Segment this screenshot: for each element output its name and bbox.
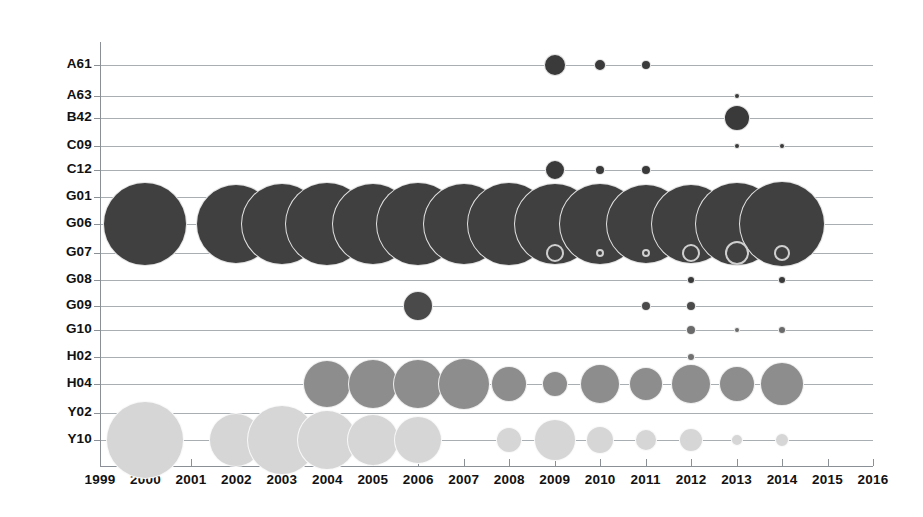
bubble-y10-2010[interactable] [586, 426, 614, 454]
bubble-y10-2014[interactable] [775, 433, 789, 447]
gridline-c09 [100, 146, 873, 147]
bubble-h04-2006[interactable] [393, 359, 443, 409]
bubble-g10-2014[interactable] [778, 326, 786, 334]
bubble-g10-2013[interactable] [734, 327, 740, 333]
bubble-h04-2011[interactable] [629, 367, 663, 401]
y-axis-label-a63: A63 [22, 87, 92, 102]
y-axis-label-g09: G09 [22, 297, 92, 312]
x-tick-2001 [191, 459, 192, 466]
bubble-h04-2012[interactable] [671, 364, 711, 404]
x-axis-label-2016: 2016 [843, 472, 903, 487]
y-axis-label-y10: Y10 [22, 431, 92, 446]
x-tick-2016 [873, 459, 874, 466]
y-axis-label-h02: H02 [22, 348, 92, 363]
y-axis-line [100, 42, 101, 466]
plot-area: A61A63B42C09C12G01G06G07G08G09G10H02H04Y… [0, 0, 923, 517]
bubble-g07-2011[interactable] [642, 249, 650, 257]
bubble-b42-2013[interactable] [724, 105, 750, 131]
bubble-c12-2009[interactable] [545, 160, 565, 180]
gridline-h02 [100, 357, 873, 358]
bubble-g08-2012[interactable] [687, 276, 695, 284]
bubble-g09-2011[interactable] [641, 301, 651, 311]
bubble-g07-2009[interactable] [546, 244, 564, 262]
gridline-y02 [100, 413, 873, 414]
x-tick-1999 [100, 459, 101, 466]
bubble-g07-2014[interactable] [774, 245, 790, 261]
bubble-c12-2010[interactable] [595, 165, 605, 175]
bubble-y10-2013[interactable] [731, 434, 743, 446]
bubble-h02-2012[interactable] [687, 353, 695, 361]
gridline-b42 [100, 118, 873, 119]
y-axis-label-b42: B42 [22, 109, 92, 124]
bubble-y10-2011[interactable] [635, 429, 657, 451]
x-axis-line [100, 466, 873, 467]
y-axis-label-a61: A61 [22, 56, 92, 71]
bubble-y10-2000[interactable] [106, 401, 184, 479]
y-axis-label-g08: G08 [22, 271, 92, 286]
bubble-c09-2014[interactable] [779, 143, 785, 149]
x-tick-2011 [646, 459, 647, 466]
bubble-a63-2013[interactable] [734, 93, 740, 99]
y-axis-label-h04: H04 [22, 375, 92, 390]
bubble-c12-2011[interactable] [641, 165, 651, 175]
bubble-chart: A61A63B42C09C12G01G06G07G08G09G10H02H04Y… [0, 0, 923, 517]
bubble-h04-2010[interactable] [580, 364, 620, 404]
bubble-a61-2010[interactable] [594, 59, 606, 71]
x-tick-2010 [600, 459, 601, 466]
gridline-g08 [100, 280, 873, 281]
bubble-a61-2011[interactable] [641, 60, 651, 70]
bubble-h04-2014[interactable] [760, 362, 804, 406]
y-axis-label-g01: G01 [22, 188, 92, 203]
x-tick-2007 [464, 459, 465, 466]
y-axis-label-c09: C09 [22, 137, 92, 152]
bubble-a61-2009[interactable] [544, 54, 566, 76]
y-axis-label-g10: G10 [22, 321, 92, 336]
bubble-c09-2013[interactable] [734, 143, 740, 149]
bubble-h04-2009[interactable] [542, 371, 568, 397]
bubble-g07-2012[interactable] [682, 244, 700, 262]
bubble-g06-2000[interactable] [103, 182, 187, 266]
gridline-c12 [100, 170, 873, 171]
bubble-h04-2013[interactable] [719, 366, 755, 402]
bubble-y10-2006[interactable] [394, 416, 442, 464]
gridline-g09 [100, 306, 873, 307]
bubble-h04-2004[interactable] [303, 360, 351, 408]
bubble-y10-2009[interactable] [534, 419, 576, 461]
bubble-y10-2005[interactable] [347, 414, 399, 466]
bubble-g08-2014[interactable] [778, 276, 786, 284]
gridline-a63 [100, 96, 873, 97]
x-tick-2015 [828, 459, 829, 466]
bubble-y10-2012[interactable] [679, 428, 703, 452]
bubble-g07-2013[interactable] [725, 241, 749, 265]
bubble-y10-2008[interactable] [496, 427, 522, 453]
y-axis-label-c12: C12 [22, 161, 92, 176]
y-axis-label-g06: G06 [22, 215, 92, 230]
x-tick-2013 [737, 459, 738, 466]
y-axis-label-g07: G07 [22, 244, 92, 259]
bubble-g10-2012[interactable] [686, 325, 696, 335]
x-tick-2008 [509, 459, 510, 466]
gridline-a61 [100, 65, 873, 66]
x-tick-2014 [782, 459, 783, 466]
bubble-h04-2007[interactable] [438, 358, 490, 410]
bubble-g09-2006[interactable] [403, 291, 433, 321]
x-tick-2012 [691, 459, 692, 466]
bubble-h04-2005[interactable] [348, 359, 398, 409]
y-axis-label-y02: Y02 [22, 404, 92, 419]
bubble-h04-2008[interactable] [491, 366, 527, 402]
gridline-g10 [100, 330, 873, 331]
bubble-g09-2012[interactable] [686, 301, 696, 311]
